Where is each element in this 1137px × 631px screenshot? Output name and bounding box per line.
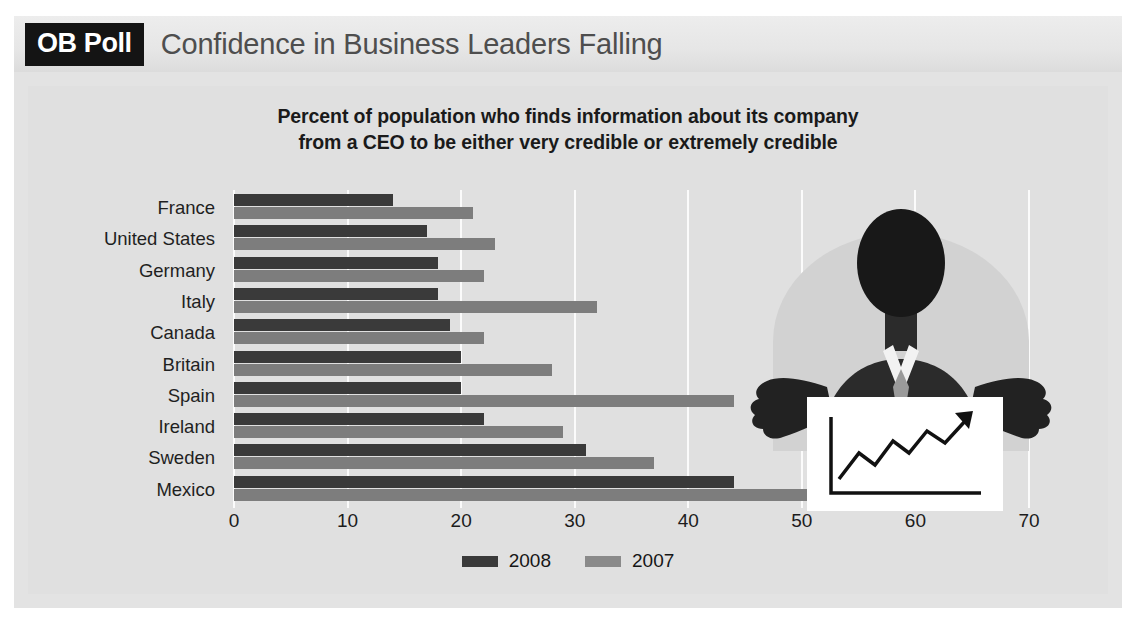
bar-sweden-2008 [234,444,586,456]
x-axis-tick-0: 0 [229,510,240,532]
legend-swatch-2007 [585,556,621,567]
bar-germany-2007 [234,270,484,282]
bar-group-france [28,192,1108,223]
bar-germany-2008 [234,257,438,269]
bar-france-2008 [234,194,393,206]
bar-sweden-2007 [234,457,654,469]
bar-italy-2007 [234,301,597,313]
bar-spain-2008 [234,382,461,394]
bar-canada-2007 [234,332,484,344]
x-axis-tick-50: 50 [791,510,812,532]
bar-britain-2008 [234,351,461,363]
bar-group-germany [28,255,1108,286]
bar-group-united-states [28,223,1108,254]
bar-ireland-2007 [234,426,563,438]
bar-mexico-2008 [234,476,734,488]
x-axis-tick-20: 20 [451,510,472,532]
legend-swatch-2008 [462,556,498,567]
bar-italy-2008 [234,288,438,300]
x-axis-ticks: 010203040506070 [28,510,1108,540]
bar-group-mexico [28,474,1108,505]
legend-item-2007[interactable]: 2007 [585,550,674,572]
x-axis-tick-40: 40 [678,510,699,532]
infographic-root: OB Poll Confidence in Business Leaders F… [0,0,1137,631]
bar-spain-2007 [234,395,734,407]
legend-label-2008: 2008 [509,550,551,572]
bar-group-italy [28,286,1108,317]
legend-label-2007: 2007 [632,550,674,572]
brand-badge: OB Poll [25,23,144,66]
x-axis-tick-60: 60 [905,510,926,532]
bar-group-sweden [28,442,1108,473]
bar-group-ireland [28,411,1108,442]
plot-area: FranceUnited StatesGermanyItalyCanadaBri… [28,86,1108,594]
bar-canada-2008 [234,319,450,331]
bar-mexico-2007 [234,489,927,501]
bar-ireland-2008 [234,413,484,425]
bar-group-britain [28,349,1108,380]
bar-united-states-2008 [234,225,427,237]
infographic-card: OB Poll Confidence in Business Leaders F… [14,16,1122,608]
legend-item-2008[interactable]: 2008 [462,550,551,572]
x-axis-tick-70: 70 [1018,510,1039,532]
x-axis-tick-10: 10 [337,510,358,532]
bar-group-canada [28,317,1108,348]
x-axis-tick-30: 30 [564,510,585,532]
header-bar: OB Poll Confidence in Business Leaders F… [14,16,1122,72]
bar-series-container [28,192,1108,505]
bar-britain-2007 [234,364,552,376]
page-title: Confidence in Business Leaders Falling [161,28,663,61]
chart-legend: 20082007 [28,550,1108,572]
bar-france-2007 [234,207,473,219]
chart-panel: Percent of population who finds informat… [28,86,1108,594]
bar-group-spain [28,380,1108,411]
bar-united-states-2007 [234,238,495,250]
